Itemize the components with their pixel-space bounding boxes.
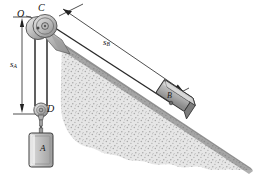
diagram-svg [0, 0, 258, 183]
label-pivot-O: O [17, 9, 24, 19]
incline-ground [57, 40, 253, 174]
sA-subscript: A [14, 63, 17, 69]
label-pulley-D: D [47, 104, 54, 114]
label-dimension-sB: sB [103, 38, 110, 48]
label-block-A: A [40, 144, 46, 153]
label-block-B: B [167, 92, 172, 100]
figure-canvas: O C D A B sA sB [0, 0, 258, 183]
label-dimension-sA: sA [10, 60, 17, 70]
block-B-eyelet [169, 101, 173, 105]
sB-subscript: B [107, 41, 110, 47]
label-pulley-C: C [38, 3, 45, 13]
